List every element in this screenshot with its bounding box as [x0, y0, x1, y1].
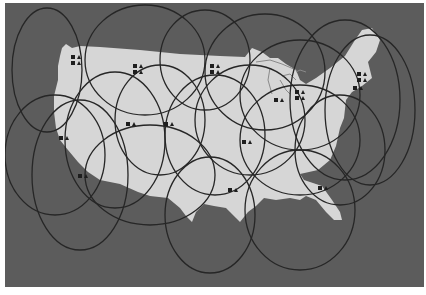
square-icon [71, 55, 75, 59]
square-icon [126, 122, 130, 126]
square-icon [164, 122, 168, 126]
map-frame [5, 3, 424, 287]
square-icon [357, 78, 361, 82]
us-coverage-map [5, 3, 424, 287]
square-icon [295, 90, 299, 94]
square-icon [210, 64, 214, 68]
square-icon [295, 96, 299, 100]
square-icon [78, 174, 82, 178]
square-icon [133, 70, 137, 74]
square-icon [71, 61, 75, 65]
square-icon [357, 72, 361, 76]
square-icon [242, 140, 246, 144]
square-icon [133, 64, 137, 68]
square-icon [318, 186, 322, 190]
square-icon [228, 188, 232, 192]
square-icon [274, 98, 278, 102]
square-icon [210, 70, 214, 74]
square-icon [59, 136, 63, 140]
square-icon [353, 86, 357, 90]
